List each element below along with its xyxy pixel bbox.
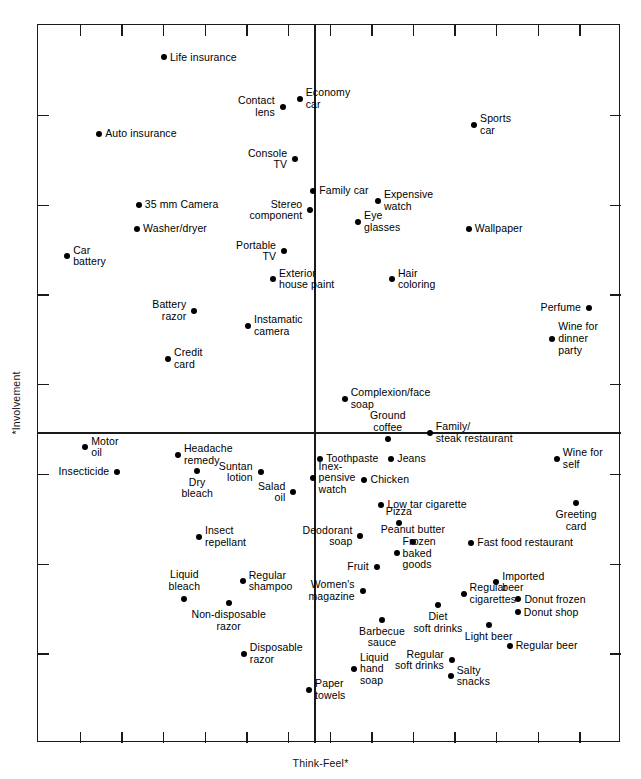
data-point-label: Battery razor	[152, 299, 186, 322]
x-tick-bottom	[454, 732, 455, 743]
data-point	[165, 356, 171, 362]
data-point-label: Salad oil	[258, 481, 285, 504]
data-point	[114, 469, 120, 475]
data-point	[515, 609, 521, 615]
data-point-label: Donut frozen	[524, 594, 585, 606]
y-tick-right	[610, 474, 621, 475]
data-point-label: Insect repellant	[205, 525, 246, 548]
data-point	[427, 430, 433, 436]
data-point-label: Regular cigarettes	[470, 582, 517, 605]
data-point	[226, 600, 232, 606]
x-tick-bottom	[371, 732, 372, 743]
y-axis-title: *Involvement	[10, 343, 22, 463]
data-point	[461, 591, 467, 597]
data-point	[161, 54, 167, 60]
data-point-label: Console TV	[248, 148, 287, 171]
data-point-label: Life insurance	[170, 52, 237, 64]
data-point	[194, 468, 200, 474]
data-point-label: Motor oil	[91, 436, 118, 459]
x-tick-top	[121, 25, 122, 36]
x-tick-bottom	[496, 732, 497, 743]
x-tick-bottom	[288, 732, 289, 743]
x-tick-bottom	[80, 732, 81, 743]
data-point	[258, 469, 264, 475]
data-point-label: Jeans	[397, 453, 426, 465]
x-axis-title: Think-Feel*	[0, 757, 641, 769]
data-point-label: Liquid hand soap	[360, 652, 389, 687]
data-point	[385, 436, 391, 442]
data-point	[96, 131, 102, 137]
x-tick-top	[163, 25, 164, 36]
x-tick-top	[496, 25, 497, 36]
data-point	[310, 475, 316, 481]
data-point-label: Portable TV	[236, 240, 276, 263]
y-tick-right	[610, 384, 621, 385]
data-point	[468, 540, 474, 546]
x-tick-top	[246, 25, 247, 36]
data-point	[245, 323, 251, 329]
data-point	[342, 396, 348, 402]
x-tick-top	[205, 25, 206, 36]
x-tick-top	[330, 25, 331, 36]
data-point-label: Barbecue sauce	[322, 626, 442, 649]
x-tick-bottom	[538, 732, 539, 743]
x-tick-top	[288, 25, 289, 36]
data-point-label: Expensive watch	[384, 189, 433, 212]
data-point-label: Instamatic camera	[254, 314, 303, 337]
data-point-label: Sports car	[480, 113, 511, 136]
x-tick-bottom	[246, 732, 247, 743]
y-tick-right	[610, 115, 621, 116]
data-point-label: Chicken	[370, 474, 409, 486]
data-point	[573, 500, 579, 506]
data-point-label: Hair coloring	[398, 268, 436, 291]
data-point	[191, 308, 197, 314]
data-point	[351, 666, 357, 672]
x-tick-top	[538, 25, 539, 36]
y-tick-right	[610, 294, 621, 295]
data-point	[549, 336, 555, 342]
data-point-label: Family/ steak restaurant	[436, 421, 513, 444]
data-point-label: Regular soft drinks	[395, 649, 444, 672]
data-point-label: Non-disposable razor	[169, 609, 289, 632]
x-tick-bottom	[121, 732, 122, 743]
data-point	[389, 276, 395, 282]
data-point-label: Complexion/face soap	[351, 387, 431, 410]
x-tick-top	[371, 25, 372, 36]
data-point	[270, 276, 276, 282]
data-point-label: Salty snacks	[457, 665, 490, 688]
data-point	[507, 643, 513, 649]
x-tick-bottom	[413, 732, 414, 743]
data-point	[307, 207, 313, 213]
data-point	[471, 122, 477, 128]
x-tick-bottom	[330, 732, 331, 743]
data-point	[466, 226, 472, 232]
data-point	[241, 651, 247, 657]
data-point-label: Suntan lotion	[219, 461, 253, 484]
data-point-label: Disposable razor	[250, 642, 303, 665]
data-point-label: Regular beer	[516, 640, 578, 652]
data-point-label: Regular shampoo	[249, 570, 293, 593]
y-tick-right	[610, 564, 621, 565]
data-point	[134, 226, 140, 232]
data-point	[374, 564, 380, 570]
data-point	[181, 596, 187, 602]
data-point	[297, 96, 303, 102]
data-point	[355, 219, 361, 225]
y-tick-left	[38, 205, 49, 206]
data-point-label: Insecticide	[59, 466, 110, 478]
data-point	[64, 253, 70, 259]
data-point	[292, 156, 298, 162]
y-tick-left	[38, 653, 49, 654]
data-point-label: Washer/dryer	[143, 223, 207, 235]
data-point-label: Car battery	[73, 245, 106, 268]
data-point-label: Economy car	[306, 87, 350, 110]
x-tick-top	[413, 25, 414, 36]
data-point	[515, 596, 521, 602]
data-point-label: Wine for dinner party	[558, 321, 598, 356]
y-tick-right	[610, 653, 621, 654]
data-point-label: Greeting card	[516, 509, 636, 532]
data-point-label: Auto insurance	[105, 128, 176, 140]
x-tick-bottom	[205, 732, 206, 743]
x-tick-bottom	[163, 732, 164, 743]
data-point	[310, 188, 316, 194]
